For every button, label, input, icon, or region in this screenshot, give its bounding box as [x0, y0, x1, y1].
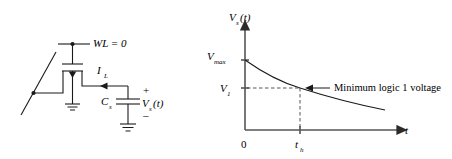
figure-canvas: WL = 0 I L C s + – V s (t) — [0, 0, 452, 159]
bulk-arrow-icon — [69, 72, 76, 79]
x-tick-label-th-sub: h — [300, 146, 304, 154]
x-tick-label-th: t h — [295, 138, 304, 154]
figure-container: WL = 0 I L C s + – V s (t) — [0, 0, 452, 159]
word-line-label: WL = 0 — [93, 37, 127, 49]
y-tick-label-vmax: V max — [207, 50, 227, 66]
x-axis-title: t — [405, 124, 409, 136]
capacitor-icon — [116, 99, 140, 104]
node-voltage-label-sub: s — [149, 105, 152, 113]
leakage-current-arrow-icon — [100, 83, 108, 90]
ground-icon-transistor — [65, 104, 80, 110]
y-tick-label-v1-sub: 1 — [227, 90, 231, 98]
leakage-current-label: I L — [96, 64, 108, 80]
ground-icon-capacitor — [120, 124, 136, 131]
leakage-current-label-main: I — [96, 64, 102, 76]
x-tick-label-th-main: t — [295, 138, 299, 150]
dram-cell-circuit: WL = 0 I L C s + – V s (t) — [21, 37, 164, 131]
polarity-plus-label: + — [143, 84, 149, 96]
annotation-label: Minimum logic 1 voltage — [334, 82, 441, 93]
capacitor-label-sub: s — [109, 103, 112, 111]
y-tick-label-v1: V 1 — [220, 82, 231, 98]
y-tick-label-vmax-sub: max — [214, 58, 227, 66]
leakage-current-label-sub: L — [103, 72, 108, 80]
node-voltage-label-arg: (t) — [153, 97, 164, 110]
voltage-decay-plot: Minimum logic 1 voltage V s (t) t V max … — [207, 11, 441, 154]
source-lead — [34, 85, 64, 93]
polarity-minus-label: – — [142, 109, 149, 121]
x-tick-label-origin: 0 — [241, 138, 247, 150]
y-axis-title: V s (t) — [229, 11, 251, 27]
y-axis-title-sub: s — [236, 19, 239, 27]
capacitor-label: C s — [101, 95, 112, 111]
y-axis-title-arg: (t) — [240, 11, 251, 24]
bit-line-icon — [21, 52, 56, 115]
capacitor-label-main: C — [101, 95, 109, 107]
